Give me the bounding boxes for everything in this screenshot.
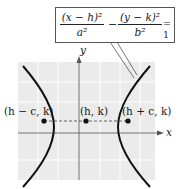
y-axis-arrow-icon — [77, 56, 82, 63]
y-axis-label: y — [80, 44, 86, 56]
fraction-x-term: (x − h)² a² — [60, 10, 104, 39]
right-focus-point — [125, 118, 130, 123]
right-focus-label: (h + c, k) — [122, 105, 171, 117]
minus-operator: − — [108, 18, 117, 31]
left-focus-label: (h − c, k) — [4, 105, 53, 117]
x-axis-label: x — [166, 126, 172, 138]
y-term-denominator: b² — [118, 25, 162, 39]
equals-one: = 1 — [163, 18, 174, 40]
left-focus-point — [41, 118, 46, 123]
y-term-numerator: (y − k)² — [118, 10, 162, 25]
x-term-denominator: a² — [60, 25, 104, 39]
fraction-y-term: (y − k)² b² — [118, 10, 162, 39]
center-label: (h, k) — [80, 105, 108, 117]
x-axis-arrow-icon — [157, 131, 164, 136]
x-term-numerator: (x − h)² — [60, 10, 104, 25]
equation-box: (x − h)² a² − (y − k)² b² = 1 — [55, 7, 175, 43]
center-point — [83, 118, 88, 123]
